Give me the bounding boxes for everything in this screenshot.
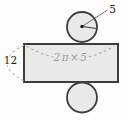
lateral-surface-rectangle — [24, 44, 118, 82]
diagram-canvas: 2π×5 12 5 — [0, 0, 128, 120]
cylinder-net-figure: 2π×5 12 5 — [0, 0, 128, 120]
circumference-label: 2π×5 — [52, 51, 88, 63]
bottom-base-circle — [67, 83, 97, 113]
radius-label: 5 — [109, 3, 116, 15]
center-dot — [80, 25, 83, 28]
height-label: 12 — [4, 54, 17, 66]
